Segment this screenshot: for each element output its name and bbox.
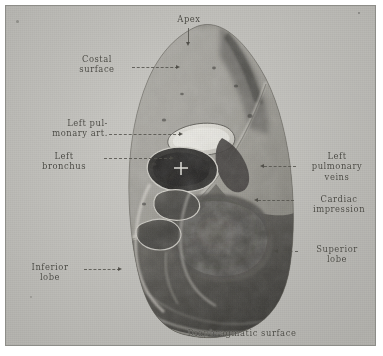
arrow-superior-lobe (274, 249, 278, 253)
leader-superior-lobe (278, 251, 298, 252)
leader-left-pulmonary-artery (109, 134, 181, 135)
arrow-cardiac-impression (254, 198, 258, 202)
leader-left-bronchus (104, 158, 172, 159)
lung-photograph (124, 24, 300, 340)
arrow-left-pulmonary-artery (179, 132, 183, 136)
plate-speck (30, 296, 32, 298)
label-left-pulmonary-artery: Left pul- monary art. (24, 118, 108, 139)
arrow-left-pulmonary-veins (260, 164, 264, 168)
label-costal-surface: Costal surface (64, 54, 130, 75)
leader-cardiac-impression (258, 200, 294, 201)
label-apex: Apex (158, 14, 220, 24)
arrow-left-bronchus (170, 156, 174, 160)
plate-speck (358, 12, 360, 14)
plate-speck (16, 20, 19, 23)
arrow-costal-surface (176, 65, 180, 69)
left-lung-specimen (124, 24, 300, 340)
arrow-apex (186, 42, 190, 46)
label-cardiac-impression: Cardiac impression (296, 194, 375, 215)
leader-costal-surface (132, 67, 178, 68)
caption-diaphragmatic-surface: Diaphragmatic surface (154, 328, 330, 338)
label-left-pulmonary-veins: Left pulmonary veins (298, 151, 375, 182)
leader-apex (188, 28, 189, 43)
leader-inferior-lobe (84, 269, 120, 270)
label-inferior-lobe: Inferior lobe (14, 262, 86, 283)
arrow-inferior-lobe (118, 267, 122, 271)
label-left-bronchus: Left bronchus (26, 151, 102, 172)
label-superior-lobe: Superior lobe (300, 244, 374, 265)
anatomical-plate: Apex Costal surface Left pul- monary art… (6, 6, 375, 345)
leader-left-pulmonary-veins (264, 166, 296, 167)
